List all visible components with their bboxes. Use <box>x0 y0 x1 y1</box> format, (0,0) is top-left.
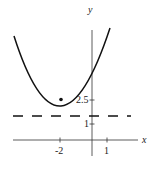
y-tick-label-2-5: 2.5 <box>76 94 89 105</box>
x-tick-label-neg2: -2 <box>55 145 63 156</box>
x-axis-label: x <box>141 134 147 145</box>
chart-canvas: y x -2 1 2.5 1 <box>0 0 162 170</box>
x-tick-label-1: 1 <box>104 145 109 156</box>
point-marker <box>59 98 63 102</box>
y-tick-label-1: 1 <box>84 118 89 129</box>
y-axis-label: y <box>87 4 93 15</box>
parabola-curve <box>14 28 110 106</box>
